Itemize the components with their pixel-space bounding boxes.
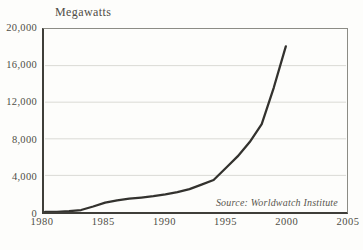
plot-area: Source: Worldwatch Institute [42, 28, 348, 214]
y-axis-title: Megawatts [55, 5, 111, 20]
source-note: Source: Worldwatch Institute [216, 197, 338, 208]
y-tick-label: 4,000 [0, 171, 37, 183]
x-tick-label: 1990 [153, 216, 176, 228]
y-tick-label: 16,000 [0, 59, 37, 71]
x-tick-label: 2005 [337, 216, 360, 228]
megawatts-line-chart: Megawatts Source: Worldwatch Institute 0… [0, 0, 363, 250]
x-tick-label: 1995 [214, 216, 237, 228]
x-tick-label: 2000 [275, 216, 298, 228]
y-tick-label: 8,000 [0, 134, 37, 146]
x-tick-label: 1980 [31, 216, 54, 228]
y-tick-label: 20,000 [0, 22, 37, 34]
line-series-svg [44, 29, 347, 212]
x-tick-label: 1985 [92, 216, 115, 228]
y-tick-label: 12,000 [0, 96, 37, 108]
data-line [45, 46, 286, 211]
